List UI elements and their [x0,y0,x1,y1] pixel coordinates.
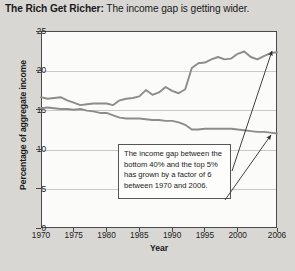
chart-figure: Percentage of aggregate income Year The … [0,0,295,271]
annotation-arrows-layer [0,0,295,271]
arrow-to-top-5-percent [232,51,272,171]
arrow-to-bottom-40-percent [225,135,271,200]
